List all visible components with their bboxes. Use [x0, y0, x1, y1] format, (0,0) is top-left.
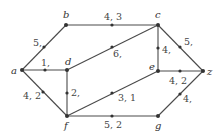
edge-direction-marker: [42, 45, 45, 48]
edge-label-c-e: 4,: [162, 44, 171, 55]
edge-direction-marker: [178, 92, 181, 95]
vertex-label-z: z: [206, 66, 213, 77]
edge-label-f-g: 5, 2: [104, 119, 122, 130]
vertex-label-b: b: [63, 9, 69, 20]
edges-group: [22, 25, 203, 116]
vertex-f: [65, 114, 69, 118]
vertex-d: [65, 68, 69, 72]
edge-label-a-d: 1,: [41, 57, 50, 68]
vertex-label-d: d: [65, 56, 71, 67]
edge-direction-marker: [178, 69, 181, 72]
vertex-label-f: f: [63, 120, 70, 131]
edge-label-d-c: 6,: [113, 48, 122, 59]
vertex-z: [201, 69, 205, 73]
vertex-e: [156, 69, 160, 73]
flow-network-diagram: 5,1,4, 24, 36,2,4,5,4, 23, 15, 24, abcde…: [0, 0, 219, 138]
edge-label-e-z: 4, 2: [169, 75, 187, 86]
edge-label-a-f: 4, 2: [23, 90, 41, 101]
edge-label-c-z: 5,: [184, 36, 193, 47]
edge-direction-marker: [43, 68, 46, 71]
vertex-b: [64, 23, 68, 27]
edge-direction-marker: [41, 90, 44, 93]
vertex-label-a: a: [11, 65, 17, 76]
vertex-a: [20, 68, 24, 72]
edge-direction-marker: [178, 45, 181, 48]
vertex-label-g: g: [155, 120, 161, 131]
edge-direction-marker: [156, 46, 159, 49]
edge-label-f-e: 3, 1: [118, 92, 136, 103]
vertex-label-e: e: [149, 61, 155, 72]
edge-label-d-f: 2,: [71, 87, 80, 98]
edge-direction-marker: [110, 23, 113, 26]
edge-label-b-c: 4, 3: [104, 11, 122, 22]
edge-label-g-z: 4,: [183, 93, 192, 104]
edge-direction-marker: [110, 114, 113, 117]
edge-direction-marker: [110, 91, 113, 94]
edge-direction-marker: [65, 91, 68, 94]
vertex-c: [156, 23, 160, 27]
edge-label-a-b: 5,: [33, 37, 42, 48]
vertex-label-c: c: [155, 9, 161, 20]
vertex-g: [156, 114, 160, 118]
